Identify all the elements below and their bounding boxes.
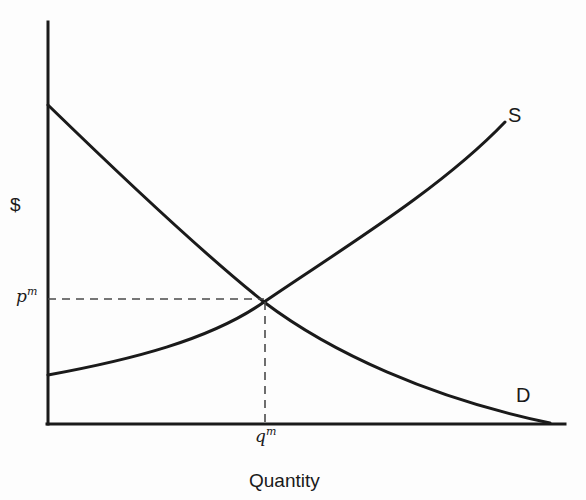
equilibrium-price-symbol: p bbox=[16, 286, 27, 306]
demand-curve-label: D bbox=[516, 384, 530, 407]
supply-demand-figure: $ Quantity S D pm qm bbox=[0, 0, 586, 500]
equilibrium-price-label: pm bbox=[16, 286, 37, 306]
equilibrium-quantity-label: qm bbox=[255, 426, 276, 446]
equilibrium-price-superscript: m bbox=[27, 285, 37, 298]
supply-curve bbox=[48, 122, 505, 375]
equilibrium-quantity-symbol: q bbox=[255, 426, 266, 446]
plot-canvas bbox=[0, 0, 586, 500]
supply-curve-label: S bbox=[508, 104, 521, 127]
x-axis-label: Quantity bbox=[249, 470, 320, 492]
equilibrium-quantity-superscript: m bbox=[266, 425, 276, 438]
y-axis-label: $ bbox=[10, 194, 21, 216]
